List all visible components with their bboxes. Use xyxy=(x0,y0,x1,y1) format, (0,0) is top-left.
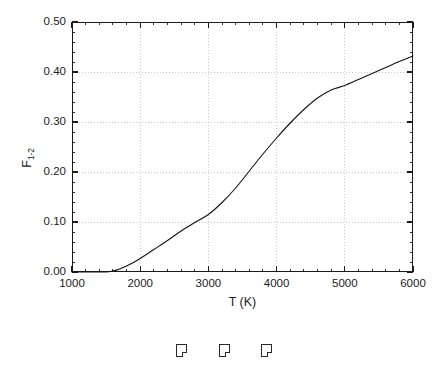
y-axis-tick-label: 0.10 xyxy=(2,216,66,228)
minor-tick-marks xyxy=(72,22,413,272)
x-axis-tick-label: 4000 xyxy=(242,278,312,290)
missing-glyph-row xyxy=(176,340,272,360)
x-axis-tick-label: 3000 xyxy=(173,278,243,290)
y-axis-title-subscript: 1-2 xyxy=(26,148,36,160)
missing-glyph-box-icon xyxy=(219,344,230,357)
y-axis-tick-label: 0.40 xyxy=(2,66,66,78)
x-axis-tick-label: 5000 xyxy=(310,278,380,290)
missing-glyph-box-icon xyxy=(176,344,187,357)
x-axis-title-text: T (K) xyxy=(229,295,257,309)
y-axis-title-rotated: F1-2 xyxy=(19,128,35,188)
y-axis-tick-label: 0.00 xyxy=(2,266,66,278)
x-axis-tick-label: 2000 xyxy=(105,278,175,290)
major-tick-marks xyxy=(72,22,413,272)
missing-glyph-box-icon xyxy=(261,344,272,357)
data-series-curve xyxy=(72,56,413,272)
y-axis-tick-label: 0.50 xyxy=(2,16,66,28)
y-axis-title: F1-2 xyxy=(17,128,37,188)
gridlines xyxy=(73,23,412,271)
x-axis-tick-label: 6000 xyxy=(378,278,442,290)
x-axis-tick-label: 1000 xyxy=(37,278,107,290)
chart-canvas xyxy=(0,0,442,367)
y-axis-tick-label: 0.30 xyxy=(2,116,66,128)
y-axis-title-text: F xyxy=(20,160,34,168)
x-axis-title: T (K) xyxy=(72,295,413,309)
figure-container: 0.000.100.200.300.400.50 100020003000400… xyxy=(0,0,442,367)
